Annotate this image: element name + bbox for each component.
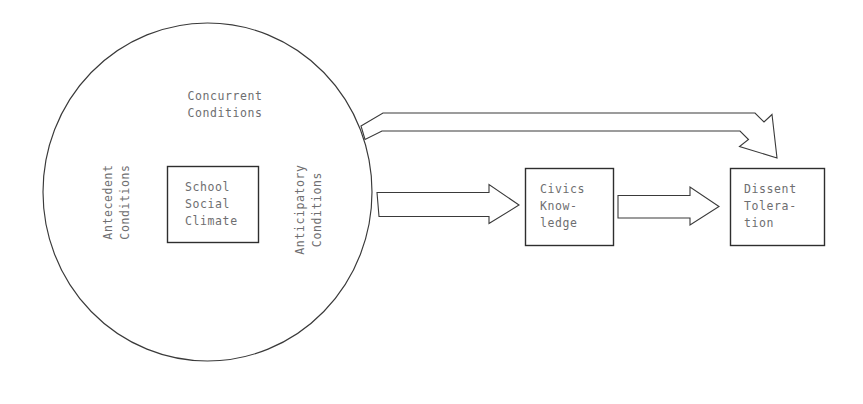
label-anticipatory-conditions: Anticipatory Conditions bbox=[292, 147, 326, 272]
school-social-climate-label: School Social Climate bbox=[185, 179, 260, 230]
arrow-climate-to-dissent-direct bbox=[361, 113, 777, 158]
diagram-canvas: Concurrent Conditions Antecedent Conditi… bbox=[0, 0, 863, 404]
arrow-climate-to-civics bbox=[377, 185, 519, 224]
dissent-toleration-label: Dissent Tolera- tion bbox=[744, 181, 824, 232]
label-concurrent-conditions: Concurrent Conditions bbox=[160, 88, 290, 122]
arrow-civics-to-dissent bbox=[618, 187, 719, 225]
label-antecedent-conditions: Antecedent Conditions bbox=[100, 142, 134, 262]
civics-knowledge-label: Civics Know- ledge bbox=[540, 181, 612, 232]
